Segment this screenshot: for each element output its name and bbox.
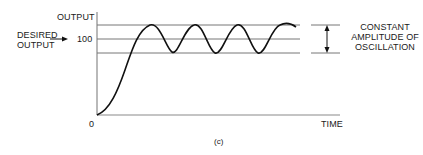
annotation-line3: OSCILLATION — [344, 42, 423, 52]
arrow-up-icon — [325, 25, 330, 31]
annotation-line1: CONSTANT — [350, 22, 420, 32]
arrow-right-icon — [62, 37, 68, 42]
origin-label: 0 — [89, 119, 94, 129]
figure-caption: (c) — [214, 137, 224, 147]
desired-output-label-line1: DESIRED — [17, 30, 58, 40]
y-axis-label: OUTPUT — [57, 12, 95, 22]
annotation-line2: AMPLITUDE OF — [344, 32, 423, 42]
arrow-down-icon — [325, 47, 330, 53]
response-curve — [97, 24, 296, 115]
x-axis-label: TIME — [321, 119, 343, 129]
desired-output-label-line2: OUTPUT — [17, 40, 55, 50]
setpoint-value-label: 100 — [77, 34, 92, 44]
